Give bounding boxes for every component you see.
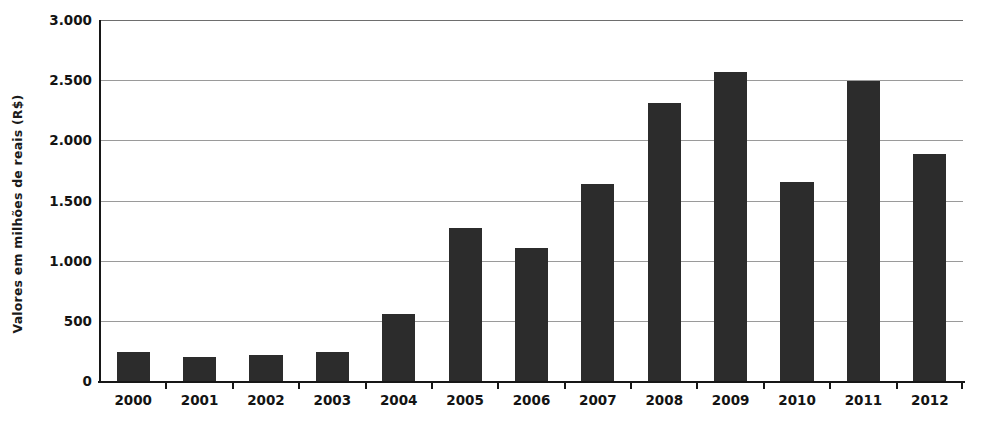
bar-2004 bbox=[382, 314, 415, 381]
x-axis-tick-labels: 2000200120022003200420052006200720082009… bbox=[100, 392, 963, 416]
bar-2011 bbox=[847, 81, 880, 381]
bar-2001 bbox=[183, 357, 216, 381]
bar-2010 bbox=[780, 182, 813, 381]
x-tick-label-2004: 2004 bbox=[380, 392, 418, 408]
bar-2007 bbox=[581, 184, 614, 381]
bar-2005 bbox=[449, 228, 482, 381]
y-axis-title: Valores em milhões de reais (R$) bbox=[0, 0, 34, 428]
x-tick-label-2012: 2012 bbox=[911, 392, 949, 408]
y-tick-label: 0 bbox=[34, 373, 92, 389]
x-tick bbox=[431, 381, 433, 389]
plot-area bbox=[100, 20, 963, 381]
x-tick bbox=[365, 381, 367, 389]
bar-2002 bbox=[249, 355, 282, 381]
x-tick-label-2005: 2005 bbox=[446, 392, 484, 408]
x-tick-label-2002: 2002 bbox=[247, 392, 285, 408]
bar-2003 bbox=[316, 352, 349, 381]
y-tick-label: 1.500 bbox=[34, 193, 92, 209]
x-tick-label-2003: 2003 bbox=[314, 392, 352, 408]
x-tick bbox=[630, 381, 632, 389]
x-tick-label-2006: 2006 bbox=[513, 392, 551, 408]
x-tick-label-2010: 2010 bbox=[778, 392, 816, 408]
y-tick-label: 3.000 bbox=[34, 12, 92, 28]
x-tick bbox=[564, 381, 566, 389]
x-tick-label-2011: 2011 bbox=[845, 392, 883, 408]
bar-series bbox=[100, 20, 963, 381]
y-tick-label: 1.000 bbox=[34, 253, 92, 269]
x-tick bbox=[696, 381, 698, 389]
y-axis-tick-labels: 05001.0001.5002.0002.5003.000 bbox=[34, 0, 92, 428]
x-tick bbox=[829, 381, 831, 389]
bar-chart: Valores em milhões de reais (R$) 05001.0… bbox=[0, 0, 986, 428]
bar-2009 bbox=[714, 72, 747, 381]
y-tick-label: 500 bbox=[34, 313, 92, 329]
bar-2000 bbox=[117, 352, 150, 381]
x-tick-label-2001: 2001 bbox=[181, 392, 219, 408]
x-tick-label-2007: 2007 bbox=[579, 392, 617, 408]
x-tick bbox=[497, 381, 499, 389]
bar-2006 bbox=[515, 248, 548, 381]
x-tick bbox=[165, 381, 167, 389]
x-tick-label-2008: 2008 bbox=[645, 392, 683, 408]
x-tick bbox=[896, 381, 898, 389]
bar-2008 bbox=[648, 103, 681, 381]
bar-2012 bbox=[913, 154, 946, 381]
x-tick bbox=[763, 381, 765, 389]
x-tick-label-2009: 2009 bbox=[712, 392, 750, 408]
x-tick bbox=[961, 381, 963, 389]
x-tick-label-2000: 2000 bbox=[114, 392, 152, 408]
y-tick-label: 2.000 bbox=[34, 132, 92, 148]
x-tick bbox=[298, 381, 300, 389]
y-tick-label: 2.500 bbox=[34, 72, 92, 88]
x-tick bbox=[232, 381, 234, 389]
x-axis-ticks bbox=[100, 381, 963, 390]
